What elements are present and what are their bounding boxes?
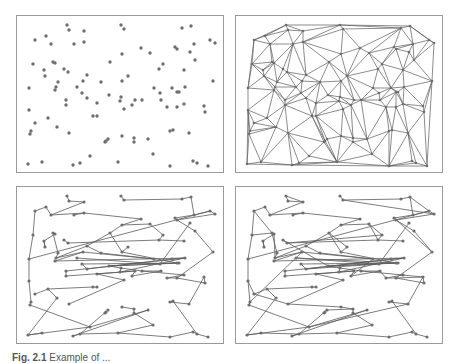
point	[351, 307, 354, 310]
point	[148, 222, 151, 225]
edge	[66, 271, 135, 276]
edge	[250, 252, 302, 302]
point	[192, 42, 195, 45]
point	[49, 42, 52, 45]
point	[53, 61, 56, 64]
point	[91, 285, 94, 288]
point	[28, 132, 31, 135]
point	[151, 152, 154, 155]
point	[67, 28, 70, 31]
edge	[386, 107, 392, 130]
edge	[424, 112, 427, 166]
edge	[316, 82, 320, 103]
point	[381, 63, 384, 66]
point	[353, 99, 356, 102]
edge	[337, 333, 389, 337]
edge	[68, 240, 159, 243]
point	[275, 126, 278, 129]
point	[206, 335, 209, 338]
edge	[90, 310, 148, 327]
edge	[277, 69, 283, 82]
edge	[373, 69, 378, 88]
point	[133, 269, 136, 272]
point	[249, 130, 252, 133]
edge	[254, 25, 286, 40]
point	[371, 153, 374, 156]
point	[394, 218, 397, 221]
point	[285, 241, 288, 244]
point	[53, 259, 56, 262]
point	[126, 74, 129, 77]
edge	[299, 156, 309, 163]
edge	[329, 62, 341, 81]
point	[64, 269, 67, 272]
point	[182, 273, 185, 276]
edge	[329, 225, 341, 233]
point	[206, 164, 209, 167]
point	[252, 292, 255, 295]
point	[182, 102, 185, 105]
point	[350, 104, 353, 107]
edge	[252, 211, 254, 235]
edge	[432, 43, 434, 81]
edge	[369, 224, 382, 235]
edge	[396, 220, 414, 231]
edge	[252, 44, 270, 64]
point	[56, 80, 59, 83]
point	[423, 111, 426, 114]
point	[339, 24, 342, 27]
point	[291, 164, 294, 167]
point	[192, 213, 195, 216]
edge	[195, 231, 213, 252]
edge	[408, 277, 423, 304]
point	[376, 238, 379, 241]
point	[208, 209, 211, 212]
point	[287, 29, 290, 32]
point	[252, 209, 255, 212]
edge	[124, 199, 182, 200]
point	[401, 239, 404, 242]
point	[132, 140, 135, 143]
edge	[341, 224, 369, 225]
point	[62, 67, 65, 70]
edge	[197, 334, 208, 337]
point	[46, 287, 49, 290]
edge	[327, 139, 337, 162]
edge	[303, 42, 306, 75]
point	[394, 276, 397, 279]
edge	[408, 112, 424, 133]
point	[413, 59, 416, 62]
point	[377, 68, 380, 71]
point	[158, 262, 161, 265]
point	[132, 136, 135, 139]
point	[378, 92, 381, 95]
point	[284, 99, 287, 102]
point	[276, 81, 279, 84]
point	[103, 311, 106, 314]
point	[248, 300, 251, 303]
edge	[254, 118, 267, 123]
edge	[403, 87, 404, 104]
edge	[44, 234, 55, 241]
point	[421, 275, 424, 278]
edge	[288, 280, 343, 304]
point	[151, 323, 154, 326]
point	[81, 79, 84, 82]
edge	[80, 333, 118, 334]
point	[27, 279, 30, 282]
point	[402, 256, 405, 259]
edge	[353, 138, 367, 139]
point	[148, 51, 151, 54]
point	[391, 129, 394, 132]
point	[28, 303, 31, 306]
caption-text: Example of ...	[49, 352, 110, 363]
point	[259, 331, 262, 334]
edge	[369, 53, 382, 64]
edge	[134, 313, 153, 325]
proximity-graph	[236, 187, 444, 345]
point	[107, 264, 110, 267]
point	[412, 43, 415, 46]
point	[106, 137, 109, 140]
edge	[378, 240, 403, 241]
point	[132, 307, 135, 310]
